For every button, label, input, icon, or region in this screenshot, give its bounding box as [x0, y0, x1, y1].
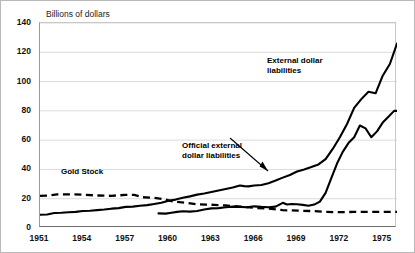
y-axis-tick-40: 40 — [1, 163, 31, 173]
annotation-external-line2: liabilities — [267, 66, 323, 76]
x-axis-tick-1954: 1954 — [72, 233, 91, 243]
y-axis-tick-80: 80 — [1, 105, 31, 115]
annotation-official-line1: Official external — [182, 141, 242, 151]
plot-area — [39, 22, 396, 227]
y-axis-tick-140: 140 — [1, 17, 31, 27]
y-axis-tick-20: 20 — [1, 193, 31, 203]
x-axis-tick-1969: 1969 — [287, 233, 306, 243]
chart-canvas — [40, 23, 397, 228]
x-axis-tick-1966: 1966 — [244, 233, 263, 243]
x-axis-tick-1951: 1951 — [30, 233, 49, 243]
x-axis-tick-1957: 1957 — [115, 233, 134, 243]
annotation-gold-line1: Gold Stock — [61, 167, 103, 177]
series-line-1 — [159, 111, 397, 214]
annotation-external-dollar-liabilities: External dollar liabilities — [267, 56, 323, 76]
annotation-official-external-dollar-liabilities: Official external dollar liabilities — [182, 141, 242, 161]
x-axis-tick-1972: 1972 — [329, 233, 348, 243]
chart-figure: Billions of dollars 020406080100120140 1… — [0, 0, 415, 253]
x-axis-tick-1960: 1960 — [158, 233, 177, 243]
annotation-gold-stock: Gold Stock — [61, 167, 103, 177]
series-line-0 — [40, 44, 397, 215]
y-axis-tick-100: 100 — [1, 76, 31, 86]
x-axis-tick-1963: 1963 — [201, 233, 220, 243]
annotation-official-line2: dollar liabilities — [182, 151, 242, 161]
x-axis-tick-1975: 1975 — [372, 233, 391, 243]
annotation-external-line1: External dollar — [267, 56, 323, 66]
data-series — [40, 44, 397, 215]
y-axis-tick-120: 120 — [1, 46, 31, 56]
y-axis-tick-60: 60 — [1, 134, 31, 144]
y-axis-tick-0: 0 — [1, 222, 31, 232]
y-axis-unit-label: Billions of dollars — [46, 9, 110, 19]
